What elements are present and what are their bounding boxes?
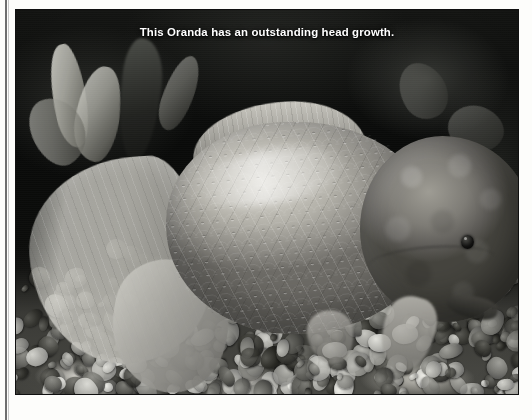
- margin-rule: [5, 0, 7, 420]
- oranda-goldfish: [16, 10, 518, 394]
- photograph: This Oranda has an outstanding head grow…: [16, 10, 518, 394]
- fish-eye: [461, 235, 474, 249]
- fish-eye-glint: [464, 237, 467, 240]
- margin-rule-secondary: [8, 0, 9, 420]
- wen-nodule-texture: [360, 136, 518, 322]
- photo-page: PHOTO BY FRED ROSENZWEIG: [0, 0, 532, 420]
- photo-caption: This Oranda has an outstanding head grow…: [16, 26, 518, 38]
